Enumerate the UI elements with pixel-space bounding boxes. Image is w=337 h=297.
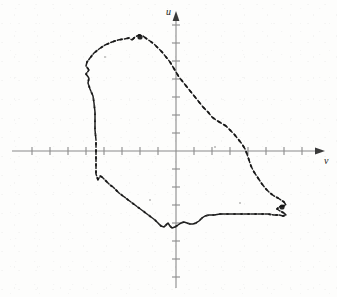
trajectory-path-ink-texture xyxy=(86,35,286,228)
y-axis-arrowhead-icon xyxy=(173,11,180,21)
axes-group xyxy=(12,11,325,288)
y-axis-label-u: u xyxy=(166,7,171,17)
x-axis-label-v: v xyxy=(324,156,328,166)
scan-speckles xyxy=(104,34,284,209)
x-axis-arrowhead-icon xyxy=(315,148,325,155)
trajectory-curve xyxy=(86,35,286,228)
trajectory-path xyxy=(86,35,286,228)
speckle xyxy=(104,56,106,58)
plot-canvas xyxy=(0,0,337,297)
speckle xyxy=(239,202,241,204)
right-hook-zigzag xyxy=(279,204,284,209)
peak-marker-blob xyxy=(137,34,142,39)
speckle xyxy=(214,146,216,148)
speckle xyxy=(149,199,151,201)
figure-root: u v xyxy=(0,0,337,297)
